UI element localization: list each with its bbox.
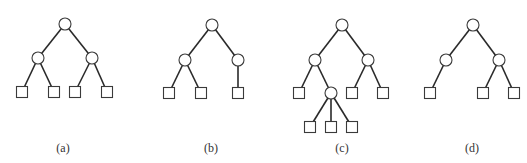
leaf-node-square (49, 87, 60, 98)
internal-node-circle (86, 52, 98, 64)
leaf-node-square (478, 88, 489, 99)
leaf-node-square (347, 88, 358, 99)
caption-a: (a) (43, 141, 83, 156)
internal-node-circle (179, 54, 191, 66)
internal-node-circle (59, 18, 71, 30)
tree-edge (315, 25, 342, 60)
internal-node-circle (493, 54, 505, 66)
leaf-node-square (347, 122, 358, 133)
internal-node-circle (440, 54, 452, 66)
tree-diagrams-figure (0, 0, 527, 163)
tree-d (425, 19, 520, 99)
internal-node-circle (232, 54, 244, 66)
leaf-node-square (196, 88, 207, 99)
internal-node-circle (362, 54, 374, 66)
leaf-node-square (326, 122, 337, 133)
internal-node-circle (32, 52, 44, 64)
caption-b: (b) (191, 141, 231, 156)
leaf-node-square (378, 88, 389, 99)
internal-node-circle (336, 19, 348, 31)
leaf-node-square (70, 87, 81, 98)
leaf-node-square (102, 87, 113, 98)
internal-node-circle (309, 54, 321, 66)
leaf-node-square (164, 88, 175, 99)
tree-edge (446, 25, 473, 60)
caption-c: (c) (322, 141, 362, 156)
leaf-node-square (233, 88, 244, 99)
tree-c (294, 19, 389, 133)
leaf-node-square (305, 122, 316, 133)
leaf-node-square (17, 87, 28, 98)
tree-edge (185, 25, 212, 60)
tree-b (164, 19, 245, 99)
internal-node-circle (467, 19, 479, 31)
tree-a (17, 18, 113, 98)
caption-d: (d) (452, 141, 492, 156)
leaf-node-square (425, 88, 436, 99)
internal-node-circle (206, 19, 218, 31)
internal-node-circle (325, 87, 337, 99)
leaf-node-square (294, 88, 305, 99)
leaf-node-square (509, 88, 520, 99)
